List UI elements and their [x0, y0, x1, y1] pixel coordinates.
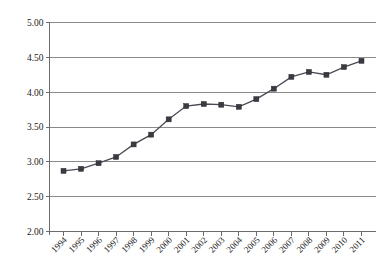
data-point-marker: [324, 72, 329, 77]
x-axis-tick-label: 1994: [49, 234, 69, 254]
x-axis-tick-label: 2004: [224, 234, 244, 254]
x-axis-tick-label: 2005: [242, 234, 262, 254]
y-axis-tick-label: 4.50: [27, 53, 44, 63]
gridlines-group: [50, 23, 376, 232]
x-axis-tick-label: 1997: [102, 234, 122, 254]
data-series-line: [64, 61, 362, 171]
data-point-marker: [254, 97, 259, 102]
x-axis-tick-label: 2011: [347, 235, 367, 255]
x-axis-tick-label: 2001: [172, 235, 192, 255]
data-point-marker: [166, 117, 171, 122]
y-axis-tick-label: 3.50: [27, 122, 44, 132]
y-axis-tick-label: 2.00: [27, 227, 44, 237]
x-axis-tick-label: 2000: [154, 234, 174, 254]
data-point-marker: [219, 102, 224, 107]
data-point-markers: [61, 58, 364, 173]
data-point-marker: [96, 161, 101, 166]
y-axis-tick-label: 4.00: [27, 88, 44, 98]
data-point-marker: [271, 86, 276, 91]
x-axis-tick-label: 1995: [67, 234, 87, 254]
x-axis-tick-label: 2006: [259, 234, 279, 254]
data-point-marker: [79, 166, 84, 171]
line-chart: 5.004.504.003.503.002.502.00 19941995199…: [0, 0, 390, 274]
data-point-marker: [289, 74, 294, 79]
x-axis-tick-label: 1999: [137, 234, 157, 254]
y-axis-tick-label: 2.50: [27, 192, 44, 202]
data-point-marker: [341, 65, 346, 70]
data-point-marker: [184, 104, 189, 109]
y-axis-tick-label: 5.00: [27, 18, 44, 28]
data-point-marker: [236, 104, 241, 109]
y-axis-tick-label: 3.00: [27, 157, 44, 167]
x-axis-tick-label: 2003: [207, 234, 227, 254]
data-point-marker: [61, 168, 66, 173]
x-axis-tickmarks: [64, 232, 362, 236]
chart-canvas: 5.004.504.003.503.002.502.00 19941995199…: [0, 0, 390, 274]
x-axis-tick-label: 1996: [84, 234, 104, 254]
data-point-marker: [201, 102, 206, 107]
x-axis-tick-labels: 1994199519961997199819992000200120022003…: [49, 234, 367, 254]
x-axis-tick-label: 2010: [330, 234, 350, 254]
x-axis-tick-label: 1998: [119, 234, 139, 254]
data-point-marker: [306, 69, 311, 74]
x-axis-tick-label: 2008: [295, 234, 315, 254]
x-axis-tick-label: 2007: [277, 234, 297, 254]
data-point-marker: [114, 154, 119, 159]
y-axis-tick-labels: 5.004.504.003.503.002.502.00: [27, 18, 50, 237]
x-axis-tick-label: 2009: [312, 234, 332, 254]
data-point-marker: [131, 142, 136, 147]
x-axis-tick-label: 2002: [189, 235, 209, 255]
series-polyline: [64, 61, 362, 171]
data-point-marker: [359, 58, 364, 63]
data-point-marker: [149, 132, 154, 137]
